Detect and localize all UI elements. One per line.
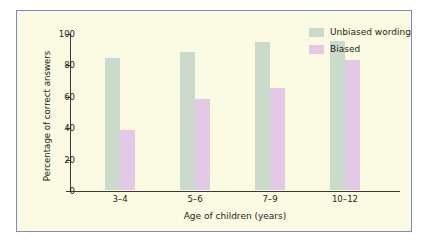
y-axis-tick-label: 60 <box>49 93 75 102</box>
x-axis-title: Age of children (years) <box>70 211 400 221</box>
legend-label: Biased <box>330 44 360 54</box>
y-axis-tick-label: 0 <box>49 187 75 196</box>
bar-group <box>105 33 135 190</box>
bar-biased <box>120 130 135 190</box>
bar-biased <box>195 99 210 190</box>
bar-unbiased <box>255 42 270 190</box>
legend-label: Unbiased wording <box>330 27 411 37</box>
legend-swatch-biased <box>309 45 324 54</box>
y-axis-tick-label: 40 <box>49 124 75 133</box>
x-axis-category-label: 7–9 <box>240 194 300 204</box>
chart-plot-area: 020406080100 Percentage of correct answe… <box>17 11 411 231</box>
chart-legend: Unbiased wordingBiased <box>309 27 413 62</box>
bar-unbiased <box>330 41 345 190</box>
legend-item: Biased <box>309 44 413 54</box>
y-axis-tick-label: 80 <box>49 61 75 70</box>
legend-swatch-unbiased <box>309 28 324 37</box>
figure-frame: 020406080100 Percentage of correct answe… <box>16 10 412 232</box>
bar-unbiased <box>105 58 120 190</box>
bar-unbiased <box>180 52 195 190</box>
y-axis-tick-label: 20 <box>49 156 75 165</box>
y-axis-title: Percentage of correct answers <box>42 31 52 201</box>
x-axis-line <box>70 191 400 192</box>
y-axis-tick-label: 100 <box>49 30 75 39</box>
x-axis-category-label: 5–6 <box>165 194 225 204</box>
bar-biased <box>270 88 285 190</box>
x-axis-category-label: 10–12 <box>315 194 375 204</box>
x-axis-category-label: 3–4 <box>90 194 150 204</box>
bar-biased <box>345 60 360 190</box>
legend-item: Unbiased wording <box>309 27 413 37</box>
bar-group <box>255 33 285 190</box>
bar-group <box>180 33 210 190</box>
y-axis-line <box>70 34 71 192</box>
